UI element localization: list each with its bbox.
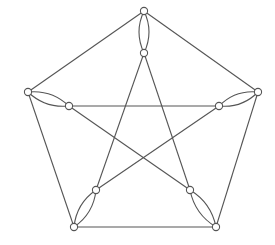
node-Ti [140, 49, 147, 56]
node-BRi [186, 186, 193, 193]
spoke-arc-BL-BLi [74, 190, 96, 227]
edge-Ti-BLi [96, 53, 144, 190]
node-R [254, 88, 261, 95]
edge-Ri-BLi [96, 106, 219, 190]
node-T [140, 7, 147, 14]
spoke-arc-BL-BLi [74, 190, 96, 227]
node-L [24, 88, 31, 95]
edge-T-R [144, 11, 258, 92]
spoke-arc-BR-BRi [190, 190, 216, 227]
spoke-arc-BR-BRi [190, 190, 216, 227]
graph-nodes [24, 7, 261, 230]
outer-pentagon-edges [28, 11, 258, 227]
edge-BL-L [28, 92, 74, 227]
node-BR [212, 223, 219, 230]
spoke-arc-T-Ti [144, 11, 149, 53]
node-BLi [92, 186, 99, 193]
petersen-graph-diagram [0, 0, 275, 245]
node-Li [65, 102, 72, 109]
edge-L-T [28, 11, 144, 92]
inner-pentagram-edges [69, 53, 219, 190]
edge-R-BR [216, 92, 258, 227]
edge-Li-BRi [69, 106, 190, 190]
node-Ri [215, 102, 222, 109]
edge-Ti-BRi [144, 53, 190, 190]
spoke-arc-T-Ti [139, 11, 144, 53]
node-BL [70, 223, 77, 230]
